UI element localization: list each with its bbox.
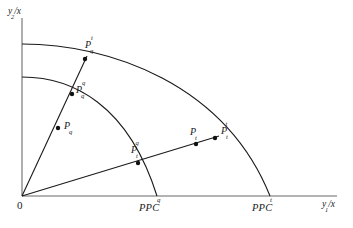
point-label-P_t_t: Ptt [221, 126, 227, 136]
point-P_q [56, 126, 60, 130]
point-label-P_q-subscript: q [69, 128, 72, 135]
point-label-P_q_t-superscript: t [91, 34, 93, 41]
point-label-P_t-subscript: t [195, 134, 197, 141]
x-axis-label-subscript: 1 [325, 206, 328, 213]
outer-ppc-label: PPCt [252, 203, 272, 214]
point-label-P_t: Pt [190, 127, 197, 137]
y-axis-label-slash: /x [14, 6, 21, 16]
point-label-P_q_t-subscript: q [90, 47, 93, 54]
point-P_q_t [83, 57, 87, 61]
point-label-P_q_q-superscript: q [82, 79, 85, 86]
y-axis-label-subscript: 2 [11, 13, 14, 20]
ppc-curves-group [22, 44, 270, 196]
outer-ppc-curve [22, 44, 270, 196]
origin-label: 0 [17, 200, 23, 211]
point-label-P_t_q: Ptq [131, 145, 139, 155]
point-label-P_q: Pq [64, 121, 72, 131]
point-P_q_q [70, 92, 74, 96]
inner-ppc-label: PPCq [139, 203, 161, 214]
axes-group [22, 18, 337, 196]
point-label-P_q_t: Pqt [85, 40, 93, 50]
point-label-P_t_t-subscript: t [226, 133, 228, 140]
outer-ppc-label-base: PPC [252, 202, 272, 213]
point-label-P_t_q-superscript: q [135, 139, 138, 146]
point-label-P_q_q: Pqq [76, 85, 85, 95]
ppc-figure: y2/x y1/x 0 PPCq PPCt Pq Pqq Pqt Ptq Pt … [0, 0, 353, 228]
inner-ppc-curve [22, 77, 157, 196]
x-axis-label-slash: /x [328, 199, 335, 209]
ray-t-line [22, 136, 219, 196]
point-P_t_t [213, 136, 217, 140]
x-axis-label: y1/x [322, 200, 335, 210]
point-P_t_q [136, 161, 140, 165]
outer-ppc-label-superscript: t [270, 196, 272, 203]
point-label-P_t_q-subscript: t [136, 152, 138, 159]
inner-ppc-label-superscript: q [157, 196, 161, 203]
inner-ppc-label-base: PPC [139, 202, 159, 213]
point-P_t [194, 142, 198, 146]
figure-canvas [0, 0, 353, 228]
point-label-P_q_q-subscript: q [81, 92, 84, 99]
y-axis-label: y2/x [8, 7, 21, 17]
